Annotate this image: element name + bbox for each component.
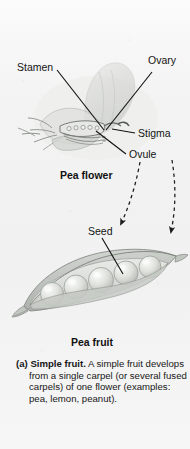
label-pea-fruit-title: Pea fruit xyxy=(71,337,113,348)
dashed-arrow-ovary-to-fruit xyxy=(171,160,175,232)
label-ovule: Ovule xyxy=(129,149,156,160)
label-seed: Seed xyxy=(88,226,113,237)
pea-fruit-illustration xyxy=(12,249,188,317)
label-stigma: Stigma xyxy=(138,128,171,139)
caption-term: Simple fruit. xyxy=(30,358,85,369)
label-pea-flower-title: Pea flower xyxy=(60,170,113,181)
figure-panel-simple-fruit: Stamen Ovary Stigma Ovule Pea flower See… xyxy=(0,0,190,449)
label-ovary: Ovary xyxy=(148,55,176,66)
figure-caption: (a) Simple fruit. A simple fruit develop… xyxy=(16,358,189,404)
development-arrows xyxy=(121,160,175,232)
caption-marker: (a) xyxy=(16,358,28,369)
dashed-arrow-ovule-to-seed xyxy=(121,162,140,224)
pea-flower-illustration xyxy=(18,63,158,160)
label-stamen: Stamen xyxy=(17,62,53,73)
